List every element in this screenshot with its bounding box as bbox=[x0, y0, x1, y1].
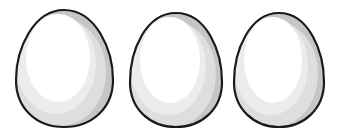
egg-1 bbox=[10, 5, 120, 130]
egg-illustration bbox=[0, 0, 339, 134]
eggs-drawing bbox=[0, 0, 339, 134]
egg-2 bbox=[125, 8, 230, 133]
egg-3 bbox=[228, 8, 333, 133]
